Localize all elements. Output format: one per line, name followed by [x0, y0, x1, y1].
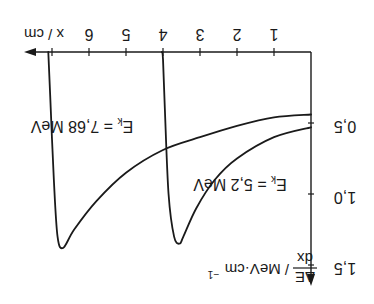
bragg-curve-chart: 123456 0,51,01,5 x / cm ΔE dx / MeV·cm −…: [0, 0, 374, 304]
x-tick-label: 4: [158, 26, 167, 43]
series-label-7-68-mev: Ek = 7,68 MeV: [30, 116, 133, 134]
label-rest: = 5,2 MeV: [193, 176, 271, 193]
curve-7-68-mev: [48, 52, 311, 248]
y-label-denominator: dx: [297, 250, 313, 267]
x-axis-label: x / cm: [24, 26, 64, 43]
y-tick-label: 1,0: [334, 189, 356, 206]
label-e: E: [123, 118, 134, 135]
x-tick-label: 1: [269, 26, 278, 43]
label-e: E: [276, 176, 287, 193]
x-axis-arrow-icon: [24, 48, 36, 56]
y-tick-label: 1,5: [334, 260, 356, 277]
curve-5-2-mev: [162, 52, 311, 244]
y-tick-label: 0,5: [334, 118, 356, 135]
svg-text:Ek = 5,2 MeV: Ek = 5,2 MeV: [193, 174, 287, 192]
series-label-5-2-mev: Ek = 5,2 MeV: [193, 174, 287, 192]
y-label-exponent: −1: [207, 269, 219, 280]
y-label-unit: / MeV·cm: [225, 261, 289, 278]
y-label-numerator: ΔE: [295, 269, 315, 286]
y-axis-label: ΔE dx / MeV·cm −1: [207, 250, 317, 286]
x-tick-label: 5: [121, 26, 130, 43]
label-rest: = 7,68 MeV: [30, 118, 117, 135]
labels: x / cm ΔE dx / MeV·cm −1 Ek = 5,2 MeV Ek…: [24, 26, 317, 286]
axes: 123456 0,51,01,5: [24, 26, 356, 286]
x-tick-label: 2: [232, 26, 241, 43]
curves: [48, 52, 311, 248]
x-tick-label: 3: [195, 26, 204, 43]
x-tick-label: 6: [84, 26, 93, 43]
y-ticks: 0,51,01,5: [308, 118, 356, 277]
svg-text:Ek = 7,68 MeV: Ek = 7,68 MeV: [30, 116, 133, 134]
